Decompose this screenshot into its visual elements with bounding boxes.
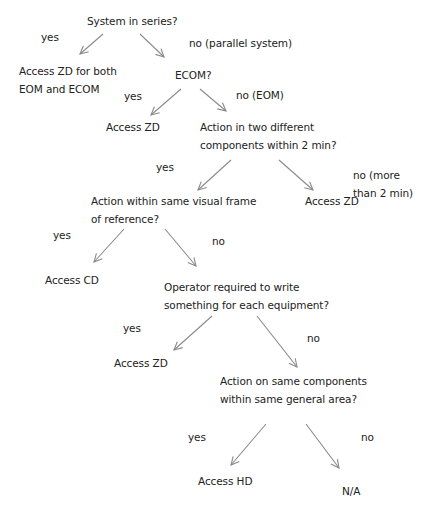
node-access-zd-ecom: Access ZD — [106, 118, 160, 136]
node-access-cd: Access CD — [45, 271, 99, 289]
node-line: Access CD — [45, 271, 99, 289]
node-line: Access ZD for both — [19, 62, 117, 80]
arrow-q_write-to-q_same_area — [257, 316, 297, 367]
arrow-q_same_area-to-r_hd — [231, 424, 266, 465]
node-line: EOM and ECOM — [19, 80, 117, 98]
node-access-zd-time: Access ZD — [305, 192, 359, 210]
node-line: of reference? — [91, 210, 256, 228]
node-operator-write: Operator required to write something for… — [164, 278, 329, 314]
node-line: System in series? — [87, 12, 177, 30]
edge-label-no: no — [361, 430, 374, 444]
edge-label-no-parallel: no (parallel system) — [189, 36, 292, 50]
arrow-q_visual_frame-to-q_write — [165, 229, 196, 266]
node-line: components within 2 min? — [200, 136, 336, 154]
node-line: ECOM? — [175, 66, 211, 84]
node-line: N/A — [342, 482, 360, 500]
edge-label-yes: yes — [41, 30, 59, 44]
arrow-q_ecom-to-q_two_components — [200, 89, 226, 111]
arrow-q_series-to-q_ecom — [140, 34, 164, 57]
node-line: Access ZD — [114, 354, 168, 372]
node-access-zd-both: Access ZD for both EOM and ECOM — [19, 62, 117, 98]
node-line: Access HD — [198, 472, 252, 490]
decision-tree-diagram: System in series? Access ZD for both EOM… — [0, 0, 429, 511]
node-system-in-series: System in series? — [87, 12, 177, 30]
edge-label-yes: yes — [188, 430, 206, 444]
edge-label-no: no — [212, 234, 225, 248]
node-line: Action within same visual frame — [91, 192, 256, 210]
node-same-area: Action on same components within same ge… — [220, 372, 367, 408]
node-access-hd: Access HD — [198, 472, 252, 490]
arrow-q_ecom-to-r_zd_ecom — [151, 89, 181, 115]
arrow-q_two_components-to-r_zd_time — [279, 160, 313, 190]
edge-label-no-eom: no (EOM) — [236, 88, 284, 102]
node-line: Action in two different — [200, 118, 336, 136]
node-line: Action on same components — [220, 372, 367, 390]
node-two-components: Action in two different components withi… — [200, 118, 336, 154]
edge-label-yes: yes — [123, 321, 141, 335]
edge-label-yes: yes — [53, 228, 71, 242]
node-access-zd-write: Access ZD — [114, 354, 168, 372]
arrow-q_two_components-to-q_visual_frame — [198, 160, 231, 190]
arrow-q_write-to-r_zd_write — [174, 316, 212, 350]
arrow-q_series-to-r_zd_both — [80, 34, 103, 54]
edge-label-line: no (more — [353, 166, 413, 184]
edge-label-yes: yes — [156, 160, 174, 174]
node-line: Operator required to write — [164, 278, 329, 296]
arrow-q_visual_frame-to-r_cd — [94, 229, 124, 262]
edge-label-yes: yes — [124, 89, 142, 103]
edge-label-line: than 2 min) — [353, 184, 413, 202]
node-line: within same general area? — [220, 390, 367, 408]
node-line: Access ZD — [305, 192, 359, 210]
edge-label-no: no — [307, 331, 320, 345]
node-na: N/A — [342, 482, 360, 500]
node-line: Access ZD — [106, 118, 160, 136]
edge-label-no-more-than-2min: no (more than 2 min) — [353, 166, 413, 202]
node-ecom: ECOM? — [175, 66, 211, 84]
arrow-q_same_area-to-r_na — [306, 424, 339, 468]
node-visual-frame: Action within same visual frame of refer… — [91, 192, 256, 228]
node-line: something for each equipment? — [164, 296, 329, 314]
